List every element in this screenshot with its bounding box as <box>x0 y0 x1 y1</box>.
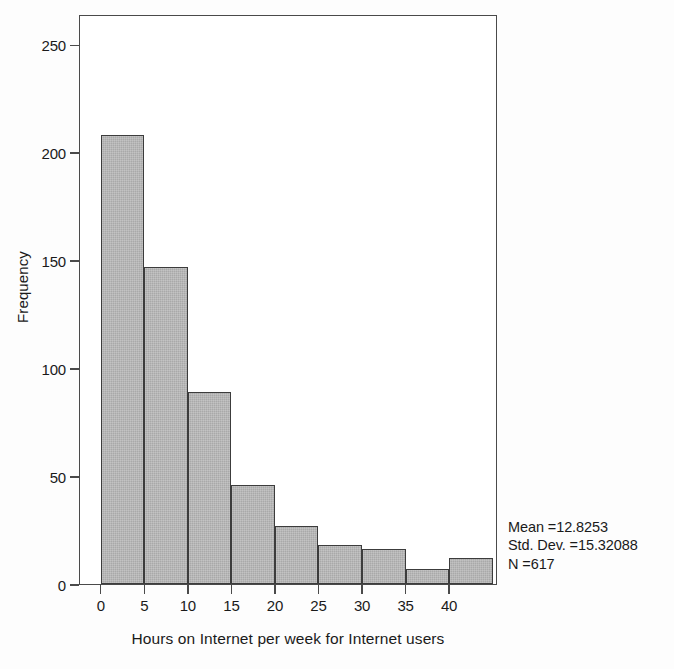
x-axis-tick-mark <box>187 585 188 594</box>
x-axis-tick-label: 0 <box>97 598 105 613</box>
x-axis-tick-label: 30 <box>354 598 370 613</box>
x-axis-tick-mark <box>448 585 449 594</box>
stat-stddev: Std. Dev. =15.32088 <box>508 536 638 554</box>
x-axis-tick-label: 15 <box>223 598 239 613</box>
x-axis-tick-label: 25 <box>310 598 326 613</box>
y-axis-tick-mark <box>70 476 79 477</box>
bars-layer <box>80 16 496 584</box>
x-axis-tick-label: 40 <box>441 598 457 613</box>
x-axis-tick-mark <box>144 585 145 594</box>
y-axis-tick-label: 100 <box>42 361 70 376</box>
x-axis-title: Hours on Internet per week for Internet … <box>132 630 445 648</box>
x-axis-tick-mark <box>361 585 362 594</box>
x-axis-tick-label: 35 <box>397 598 413 613</box>
x-axis-tick-mark <box>100 585 101 594</box>
histogram-bar <box>275 526 319 584</box>
y-axis-tick-mark <box>70 45 79 46</box>
histogram-bar <box>406 569 450 584</box>
x-axis-tick-mark <box>274 585 275 594</box>
y-axis-ticks: 050100150200250 <box>0 0 79 669</box>
statistics-annotation: Mean =12.8253 Std. Dev. =15.32088 N =617 <box>508 518 638 573</box>
histogram-bar <box>144 267 188 584</box>
histogram-bar <box>318 545 362 584</box>
y-axis-tick-label: 200 <box>42 145 70 160</box>
histogram-bar <box>449 558 493 584</box>
x-axis-tick-label: 5 <box>140 598 148 613</box>
x-axis-tick-label: 20 <box>267 598 283 613</box>
y-axis-tick-label: 250 <box>42 37 70 52</box>
x-axis-tick-label: 10 <box>180 598 196 613</box>
histogram-bar <box>188 392 232 584</box>
histogram-bar <box>101 135 145 584</box>
histogram-figure: 050100150200250 Frequency 05101520253035… <box>0 0 674 669</box>
x-axis-tick-mark <box>405 585 406 594</box>
y-axis-tick-label: 150 <box>42 253 70 268</box>
stat-n: N =617 <box>508 555 638 573</box>
x-axis-tick-mark <box>318 585 319 594</box>
histogram-bar <box>231 485 275 584</box>
y-axis-tick-label: 50 <box>50 469 70 484</box>
x-axis-tick-mark <box>231 585 232 594</box>
histogram-bar <box>362 549 406 584</box>
stat-mean: Mean =12.8253 <box>508 518 638 536</box>
y-axis-title: Frequency <box>14 251 31 323</box>
y-axis-tick-mark <box>70 368 79 369</box>
x-axis-ticks: 0510152025303540 <box>0 585 674 625</box>
y-axis-tick-mark <box>70 260 79 261</box>
y-axis-tick-mark <box>70 152 79 153</box>
